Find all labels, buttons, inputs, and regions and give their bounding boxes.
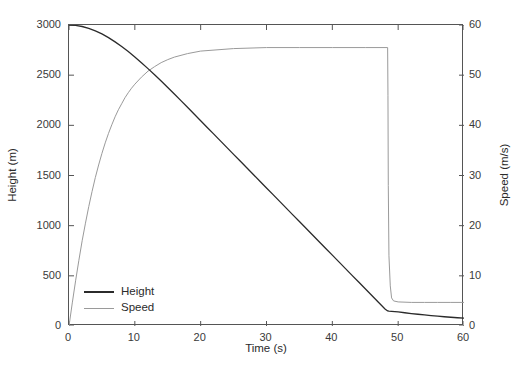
tick-marks-group bbox=[69, 25, 464, 326]
y-tick-right-20: 20 bbox=[469, 219, 481, 230]
legend-swatch-height bbox=[84, 291, 114, 292]
legend-item-speed: Speed bbox=[84, 301, 154, 315]
y-tick-left-0: 0 bbox=[18, 320, 61, 331]
y-tick-right-30: 30 bbox=[469, 169, 481, 180]
y-tick-right-50: 50 bbox=[469, 69, 481, 80]
x-tick-0: 0 bbox=[65, 332, 71, 343]
legend-label-height: Height bbox=[121, 286, 154, 298]
chart-figure: 050010001500200025003000 0102030405060 0… bbox=[0, 0, 517, 372]
legend-swatch-speed bbox=[84, 308, 114, 309]
legend-item-height: Height bbox=[84, 285, 154, 299]
x-tick-50: 50 bbox=[391, 332, 403, 343]
x-tick-40: 40 bbox=[325, 332, 337, 343]
plot-svg bbox=[69, 25, 464, 326]
y-tick-left-2000: 2000 bbox=[18, 119, 61, 130]
legend-label-speed: Speed bbox=[121, 302, 154, 314]
y-tick-right-60: 60 bbox=[469, 19, 481, 30]
y-tick-right-0: 0 bbox=[469, 320, 475, 331]
y-tick-right-10: 10 bbox=[469, 269, 481, 280]
y-tick-left-1000: 1000 bbox=[18, 219, 61, 230]
y-tick-right-40: 40 bbox=[469, 119, 481, 130]
x-tick-20: 20 bbox=[194, 332, 206, 343]
x-tick-60: 60 bbox=[457, 332, 469, 343]
x-axis-title: Time (s) bbox=[245, 343, 287, 355]
plot-area bbox=[68, 24, 463, 325]
y-tick-left-3000: 3000 bbox=[18, 19, 61, 30]
y-axis-left-title: Height (m) bbox=[7, 148, 19, 202]
x-tick-10: 10 bbox=[128, 332, 140, 343]
chart-legend: Height Speed bbox=[84, 285, 154, 315]
y-tick-left-500: 500 bbox=[18, 269, 61, 280]
y-tick-left-2500: 2500 bbox=[18, 69, 61, 80]
y-axis-right-title: Speed (m/s) bbox=[499, 144, 511, 207]
y-tick-left-1500: 1500 bbox=[18, 169, 61, 180]
series-line-height bbox=[69, 25, 464, 318]
